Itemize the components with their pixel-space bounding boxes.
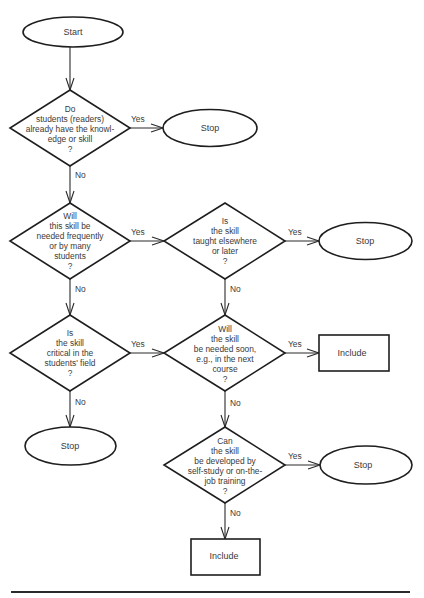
q1-label: Do students (readers) already have the k… — [26, 104, 114, 154]
q5-label: Will the skill be needed soon, e.g., in … — [194, 324, 256, 384]
edge-label-q6-yes: Yes — [288, 451, 302, 461]
q3-label: Is the skill taught elsewhere or later ? — [193, 216, 257, 266]
include1-label: Include — [337, 348, 366, 358]
edge-label-q6-no: No — [230, 508, 241, 518]
include2-label: Include — [209, 551, 238, 561]
edge-label-q1-yes: Yes — [131, 114, 145, 124]
q6-label: Can the skill be developed by self-study… — [188, 436, 262, 496]
q4-label: Is the skill critical in the students' f… — [45, 328, 96, 378]
edge-label-q2-no: No — [75, 284, 86, 294]
edge-label-q3-no: No — [230, 284, 241, 294]
flowchart-canvas — [0, 0, 424, 598]
stop4-label: Stop — [354, 460, 373, 470]
edge-label-q4-no: No — [75, 397, 86, 407]
edge-label-q5-yes: Yes — [288, 339, 302, 349]
edge-label-q5-no: No — [230, 398, 241, 408]
edge-label-q1-no: No — [75, 170, 86, 180]
start-label: Start — [63, 27, 82, 37]
stop1-label: Stop — [201, 123, 220, 133]
stop2-label: Stop — [356, 236, 375, 246]
stop3-label: Stop — [61, 441, 80, 451]
bottom-rule-divider — [11, 591, 410, 593]
edge-label-q4-yes: Yes — [131, 339, 145, 349]
q2-label: Will this skill be needed frequently or … — [36, 211, 103, 271]
edge-label-q2-yes: Yes — [131, 227, 145, 237]
edge-label-q3-yes: Yes — [288, 227, 302, 237]
